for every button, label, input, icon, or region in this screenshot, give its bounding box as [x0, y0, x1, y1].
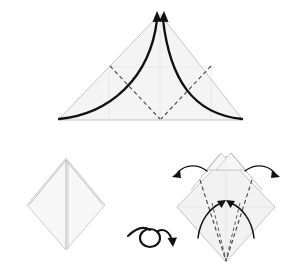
right-diamond-outward-arrowhead-right	[271, 170, 280, 178]
origami-figure-canvas: Origami folding sequence	[0, 0, 299, 279]
flip-symbol-arrowhead	[168, 238, 178, 248]
origami-diagram-root: Origami folding sequence	[0, 0, 299, 279]
right-diamond-outward-arrowhead-left	[172, 170, 181, 178]
right-diamond-outward-arrow-left	[178, 166, 207, 172]
panel-bottom-left-diamond	[27, 158, 105, 250]
flip-symbol-loop	[140, 229, 160, 247]
panel-bottom-right-diamond	[172, 153, 280, 262]
panel-top-triangle	[58, 11, 243, 120]
right-diamond-outward-arrow-right	[245, 166, 274, 172]
panel-flip-symbol	[128, 228, 177, 247]
